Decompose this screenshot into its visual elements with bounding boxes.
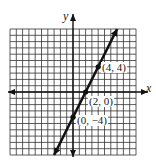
point-label-2-0: (2, 0) — [88, 96, 114, 107]
x-axis-label: x — [146, 82, 151, 94]
point-label-4-4: (4, 4) — [101, 62, 127, 73]
point-label-0-neg4: (0, −4) — [76, 115, 108, 126]
y-axis-label: y — [63, 10, 68, 22]
coordinate-plane — [0, 0, 156, 163]
